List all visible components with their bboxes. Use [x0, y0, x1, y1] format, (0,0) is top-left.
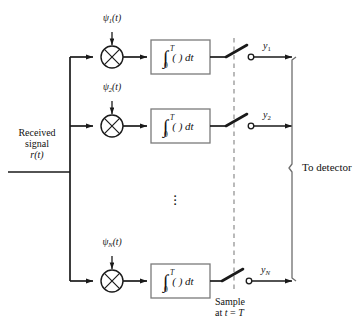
sample-time-value: T [238, 307, 244, 318]
sample-switch-2 [226, 114, 247, 126]
output-sub-2: 2 [267, 114, 270, 121]
figure-canvas: Received signal r(t) ψ1(t) ψ2(t) ψN(t) ∫… [0, 0, 364, 332]
input-label-line1: Received [8, 127, 66, 138]
integrator-body-2: ( ) dt [172, 120, 193, 132]
detector-label: To detector [302, 161, 352, 173]
sample-line2: at t = T [215, 307, 285, 318]
switch-terminal-n [246, 278, 252, 284]
input-signal-path [8, 57, 70, 281]
sample-prefix: at [215, 307, 225, 318]
integrator-expression-n: ∫ T 0 ( ) dt [163, 272, 194, 291]
psi-arg-n: (t) [113, 237, 122, 247]
basis-function-label-n: ψN(t) [86, 237, 138, 248]
integral-lower-limit-n: 0 [164, 286, 168, 294]
output-sub-n: N [265, 269, 270, 276]
ellipsis-dot-3: . [168, 198, 182, 202]
output-label-1: y1 [263, 40, 271, 53]
input-label-line2: signal [8, 138, 66, 149]
integral-lower-limit-1: 0 [164, 62, 168, 70]
basis-function-label-2: ψ2(t) [88, 82, 136, 93]
detector-bracket [289, 57, 296, 281]
vertical-ellipsis: . . . [168, 190, 182, 202]
sample-switch-n [222, 269, 243, 281]
switch-terminal-1 [248, 54, 254, 60]
psi-arg-1: (t) [112, 13, 121, 23]
integral-lower-limit-2: 0 [164, 131, 168, 139]
output-label-n: yN [261, 264, 270, 277]
integral-upper-limit-2: T [170, 114, 174, 122]
integrator-expression-1: ∫ T 0 ( ) dt [163, 48, 194, 67]
integrator-expression-2: ∫ T 0 ( ) dt [163, 117, 194, 136]
integrator-body-n: ( ) dt [172, 275, 193, 287]
output-label-2: y2 [263, 109, 271, 122]
output-sub-1: 1 [267, 45, 270, 52]
integrator-body-1: ( ) dt [172, 51, 193, 63]
sample-switch-1 [226, 45, 247, 57]
basis-function-label-1: ψ1(t) [88, 13, 136, 24]
integral-upper-limit-n: T [170, 269, 174, 277]
sample-line1: Sample [215, 296, 285, 307]
input-label-block: Received signal r(t) [8, 127, 66, 161]
switch-terminal-2 [248, 123, 254, 129]
input-label-line3: r(t) [8, 149, 66, 160]
psi-arg-2: (t) [112, 82, 121, 92]
sample-equals: = [228, 307, 239, 318]
sample-annotation: Sample at t = T [215, 296, 285, 318]
input-signal-arg: (t) [34, 149, 43, 160]
integral-sign-1: ∫ T 0 [163, 48, 168, 67]
integral-sign-n: ∫ T 0 [163, 272, 168, 291]
integral-sign-2: ∫ T 0 [163, 117, 168, 136]
integral-upper-limit-1: T [170, 45, 174, 53]
